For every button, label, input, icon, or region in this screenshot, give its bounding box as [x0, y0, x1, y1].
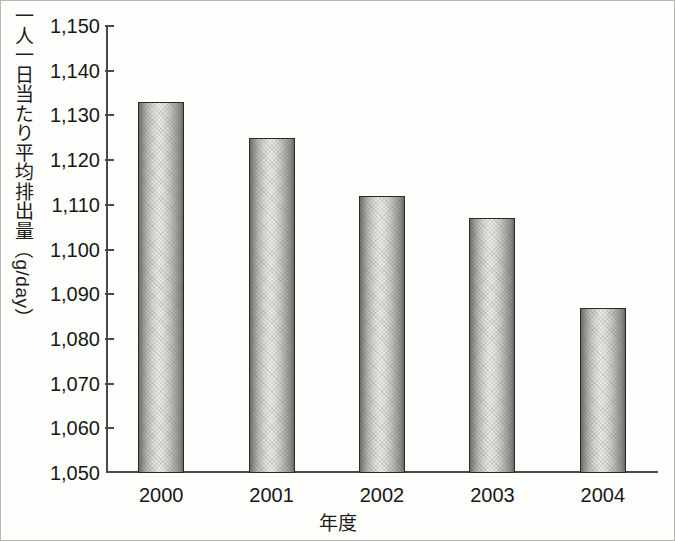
x-axis-title: 年度: [0, 508, 675, 535]
y-tick-label: 1,120: [28, 149, 100, 172]
y-tick-label: 1,090: [28, 283, 100, 306]
plot-area: [106, 26, 658, 473]
y-axis-tick: [105, 70, 114, 72]
y-tick-label: 1,050: [28, 462, 100, 485]
y-axis-tick: [105, 159, 114, 161]
y-axis-tick: [105, 25, 114, 27]
x-tick-label: 2003: [470, 484, 515, 507]
bar-2001: [249, 138, 295, 473]
y-tick-label-group: 1,1501,1401,1301,1201,1101,1001,0901,080…: [28, 0, 100, 541]
bar-2004: [580, 308, 626, 473]
y-tick-label: 1,110: [28, 193, 100, 216]
y-tick-label: 1,060: [28, 417, 100, 440]
y-tick-label: 1,150: [28, 15, 100, 38]
x-tick-label: 2001: [249, 484, 294, 507]
y-axis-tick: [105, 293, 114, 295]
y-axis-tick: [105, 427, 114, 429]
y-axis-tick: [105, 204, 114, 206]
y-axis-tick: [105, 338, 114, 340]
bar-2003: [469, 218, 515, 473]
x-tick-label: 2000: [139, 484, 184, 507]
bar-2000: [138, 102, 184, 473]
y-tick-label: 1,130: [28, 104, 100, 127]
y-axis-tick: [105, 383, 114, 385]
y-tick-label: 1,070: [28, 372, 100, 395]
y-axis-tick: [105, 249, 114, 251]
y-tick-label: 1,140: [28, 59, 100, 82]
y-tick-label: 1,080: [28, 327, 100, 350]
x-tick-label: 2004: [581, 484, 626, 507]
y-axis-tick: [105, 114, 114, 116]
x-tick-label: 2002: [360, 484, 405, 507]
chart-figure: 一人一日当たり平均排出量（g/day） 1,1501,1401,1301,120…: [0, 0, 675, 541]
bar-2002: [359, 196, 405, 473]
y-tick-label: 1,100: [28, 238, 100, 261]
